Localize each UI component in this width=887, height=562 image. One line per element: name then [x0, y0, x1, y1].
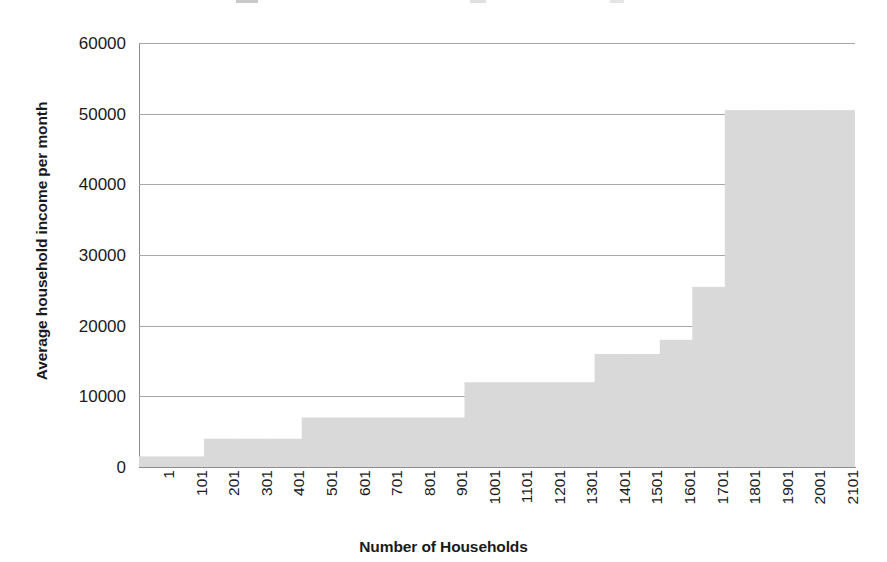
- step-bars-series: [139, 43, 855, 467]
- bar: [172, 456, 205, 467]
- plot-area: [139, 43, 855, 467]
- bar: [139, 456, 172, 467]
- x-tick-label: 2001: [812, 470, 828, 504]
- bar: [790, 110, 823, 467]
- bar: [432, 418, 465, 467]
- x-axis-tick-labels: 1101201301401501601701801901100111011201…: [139, 470, 855, 530]
- x-tick-label: 401: [291, 470, 307, 496]
- y-axis-tick-labels: 0100002000030000400005000060000: [44, 0, 126, 562]
- bar: [627, 354, 660, 467]
- x-axis-line: [139, 467, 856, 468]
- x-tick-label: 901: [454, 470, 470, 496]
- x-tick-label: 1901: [780, 470, 796, 504]
- x-tick-label: 1: [161, 470, 177, 479]
- x-tick-label: 1501: [649, 470, 665, 504]
- x-tick-label: 1201: [552, 470, 568, 504]
- y-tick-label: 60000: [44, 35, 126, 52]
- bar: [595, 354, 628, 467]
- y-tick-label: 10000: [44, 388, 126, 405]
- x-tick-label: 601: [357, 470, 373, 496]
- bar: [367, 418, 400, 467]
- bar: [334, 418, 367, 467]
- bar: [530, 382, 563, 467]
- x-tick-label: 801: [422, 470, 438, 496]
- bar: [204, 439, 237, 467]
- x-tick-label: 101: [194, 470, 210, 496]
- bar: [464, 382, 497, 467]
- x-tick-label: 1701: [715, 470, 731, 504]
- chart-figure: Average household income per month 01000…: [0, 0, 887, 562]
- y-tick-label: 50000: [44, 105, 126, 122]
- bar: [725, 110, 758, 467]
- x-tick-label: 1301: [584, 470, 600, 504]
- bar: [399, 418, 432, 467]
- y-tick-label: 40000: [44, 176, 126, 193]
- bar: [692, 287, 725, 467]
- x-tick-label: 1001: [487, 470, 503, 504]
- bar: [497, 382, 530, 467]
- x-axis-title: Number of Households: [0, 538, 887, 556]
- bar: [822, 110, 855, 467]
- x-tick-label: 501: [324, 470, 340, 496]
- bar: [562, 382, 595, 467]
- x-tick-label: 701: [389, 470, 405, 496]
- y-tick-label: 0: [44, 459, 126, 476]
- bar: [269, 439, 302, 467]
- x-tick-label: 301: [259, 470, 275, 496]
- bar: [660, 340, 693, 467]
- x-tick-label: 201: [226, 470, 242, 496]
- y-tick-label: 30000: [44, 247, 126, 264]
- x-tick-label: 1401: [617, 470, 633, 504]
- y-tick-label: 20000: [44, 317, 126, 334]
- x-tick-label: 1601: [682, 470, 698, 504]
- bar: [757, 110, 790, 467]
- x-tick-label: 1101: [519, 470, 535, 503]
- cropped-title-remnant: [0, 0, 887, 4]
- bar: [237, 439, 270, 467]
- x-tick-label: 1801: [747, 470, 763, 504]
- bar: [302, 418, 335, 467]
- x-tick-label: 2101: [845, 470, 861, 504]
